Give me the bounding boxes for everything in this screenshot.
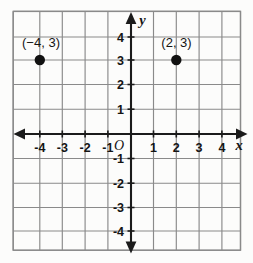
y-tick-label: 4 <box>117 31 124 45</box>
x-axis-name: x <box>234 137 242 153</box>
y-tick-label: 3 <box>117 54 124 68</box>
coordinate-plane-svg: -4 -3 -2 -1 1 2 3 4 4 3 2 1 -1 -2 -3 -4 … <box>0 0 253 263</box>
x-tick-label: 3 <box>196 141 203 155</box>
coordinate-plane-figure: -4 -3 -2 -1 1 2 3 4 4 3 2 1 -1 -2 -3 -4 … <box>0 0 253 263</box>
y-tick-label: -2 <box>113 177 124 191</box>
x-tick-label: 1 <box>150 141 157 155</box>
x-tick-label: -2 <box>80 141 91 155</box>
x-tick-label: -4 <box>34 141 45 155</box>
data-point-label: (2, 3) <box>161 35 191 50</box>
data-point[interactable] <box>171 55 181 65</box>
x-tick-label: -3 <box>57 141 68 155</box>
y-tick-label: 1 <box>117 103 124 117</box>
x-tick-label: 4 <box>218 141 225 155</box>
y-axis-name: y <box>137 12 146 28</box>
y-tick-label: -1 <box>113 152 124 166</box>
y-tick-label: -3 <box>113 201 124 215</box>
data-point-label: (−4, 3) <box>22 35 60 50</box>
x-tick-label: -1 <box>102 141 113 155</box>
origin-label: O <box>114 138 124 153</box>
data-point[interactable] <box>35 55 45 65</box>
y-tick-label: -4 <box>113 225 124 239</box>
x-tick-label: 2 <box>173 141 180 155</box>
y-tick-label: 2 <box>117 78 124 92</box>
